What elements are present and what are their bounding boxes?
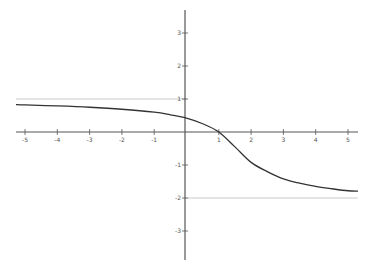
y-tick-label: -2: [175, 194, 181, 201]
x-tick-label: 4: [314, 136, 318, 143]
y-tick-label: -3: [175, 227, 181, 234]
x-tick-label: -4: [54, 136, 60, 143]
y-tick-label: -1: [175, 161, 181, 168]
x-tick-label: 1: [217, 136, 221, 143]
x-tick-label: 2: [249, 136, 253, 143]
axes: [16, 10, 358, 260]
x-tick-label: -5: [22, 136, 28, 143]
asymptote-lines: [16, 99, 358, 198]
y-tick-label: 3: [177, 29, 181, 36]
function-curve: [16, 105, 358, 191]
x-tick-label: -1: [151, 136, 157, 143]
y-tick-label: 1: [177, 95, 181, 102]
y-tick-label: 2: [177, 62, 181, 69]
x-tick-label: -2: [119, 136, 125, 143]
x-tick-label: 5: [346, 136, 350, 143]
x-tick-label: -3: [87, 136, 93, 143]
x-tick-label: 3: [281, 136, 285, 143]
function-plot: -5-4-3-2-112345321-1-2-3: [0, 0, 371, 272]
